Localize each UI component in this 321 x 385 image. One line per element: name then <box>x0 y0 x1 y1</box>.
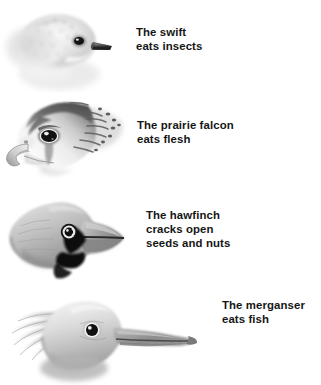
entry-falcon: The prairie falcon eats flesh <box>0 92 321 192</box>
caption-hawfinch: The hawfinch cracks open seeds and nuts <box>146 208 230 251</box>
entry-merganser: The merganser eats fish <box>0 288 321 385</box>
swift-eye <box>74 37 84 45</box>
hawfinch-head-illustration <box>0 192 145 288</box>
bird-beak-diet-figure: The swift eats insects <box>0 0 321 385</box>
entry-hawfinch: The hawfinch cracks open seeds and nuts <box>0 192 321 288</box>
caption-prairie-falcon: The prairie falcon eats flesh <box>137 118 234 146</box>
caption-swift: The swift eats insects <box>136 25 202 53</box>
prairie-falcon-head-illustration <box>0 92 135 192</box>
falcon-eye <box>41 130 57 142</box>
swift-head-illustration <box>0 0 130 92</box>
entry-swift: The swift eats insects <box>0 0 321 92</box>
caption-merganser: The merganser eats fish <box>222 298 305 326</box>
merganser-head-illustration <box>0 288 215 385</box>
merganser-eye <box>86 324 98 336</box>
